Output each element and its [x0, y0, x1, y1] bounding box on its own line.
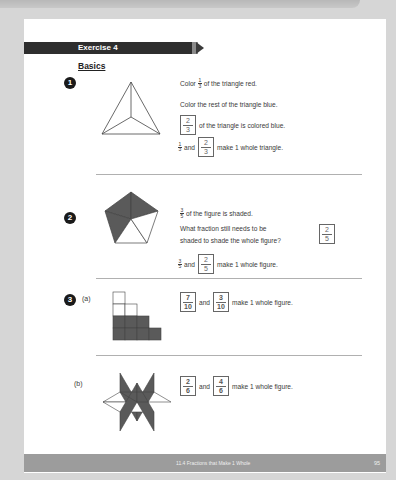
star-figure	[24, 19, 386, 473]
answer-box[interactable]: 46	[213, 376, 229, 396]
top-banner	[0, 0, 360, 8]
p3b-line: 26 and 46 make 1 whole figure.	[177, 376, 293, 396]
page-number: 95	[374, 460, 380, 466]
answer-box[interactable]: 26	[180, 376, 196, 396]
workbook-page: Exercise 4 Basics 1 Color 13 of the tria…	[24, 19, 386, 473]
footer-title: 11.4 Fractions that Make 1 Whole	[176, 460, 250, 466]
page-footer: 11.4 Fractions that Make 1 Whole 95	[24, 454, 386, 472]
